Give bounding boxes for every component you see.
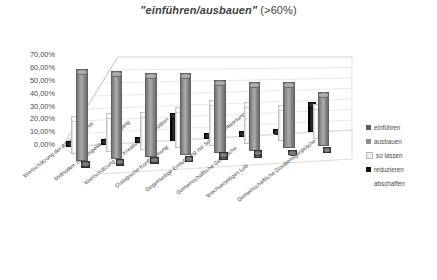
bar-group <box>204 138 238 139</box>
legend-label: so lassen <box>376 152 403 159</box>
legend-swatch-icon <box>366 139 371 144</box>
legend-swatch-icon <box>366 167 371 172</box>
legend-label: einführen <box>374 124 400 131</box>
bar-cylinder-einführen <box>150 159 157 164</box>
cylinder-body <box>318 92 330 147</box>
bar-group <box>308 131 342 132</box>
chart-container: "einführen/ausbauen" (>60%) 70,00% <box>0 0 437 280</box>
cylinder-cap <box>288 150 297 156</box>
cylinder-body <box>283 82 295 148</box>
bar-cylinder-ausbauen <box>283 84 293 148</box>
cylinder-cap <box>76 69 88 75</box>
cylinder-cap <box>111 71 123 77</box>
bar-group <box>239 136 273 137</box>
legend-label: abschaffen <box>374 180 405 187</box>
chart-title: "einführen/ausbauen" (>60%) <box>0 4 437 16</box>
cylinder-body <box>111 71 123 159</box>
cylinder-cap <box>214 80 226 86</box>
bar-cylinder-einführen <box>323 149 330 153</box>
legend-swatch-icon <box>366 125 371 130</box>
legend-item-reduzieren[interactable]: reduzieren <box>366 162 437 176</box>
bar-cylinder-einführen <box>254 152 261 157</box>
cylinder-cap <box>283 82 295 88</box>
category-labels: Wertschätzung der Arbeit EinzelnerMethod… <box>0 168 360 280</box>
cylinder-cap <box>81 161 90 167</box>
bar-cylinder-ausbauen <box>318 94 328 147</box>
bar-cylinder-ausbauen <box>214 82 224 153</box>
bar-cylinder-einführen <box>288 152 295 156</box>
legend-label: reduzieren <box>374 166 404 173</box>
cylinder-body <box>214 80 226 153</box>
bar-group <box>273 133 307 134</box>
cylinder-cap <box>116 159 125 165</box>
legend-label: ausbauen <box>374 138 402 145</box>
cylinder-cap <box>180 73 192 79</box>
bar-cylinder-einführen <box>81 163 88 168</box>
bar-cylinder-ausbauen <box>145 75 155 157</box>
cylinder-body <box>180 73 192 155</box>
cylinder-body <box>76 69 88 161</box>
cylinder-body <box>145 73 157 157</box>
bar-cylinder-einführen <box>219 154 226 159</box>
bar-cylinder-ausbauen <box>76 71 86 161</box>
cylinder-cap <box>249 82 261 88</box>
bar-group <box>170 140 204 141</box>
legend-item-so-lassen[interactable]: so lassen <box>366 148 437 162</box>
bar-cylinder-ausbauen <box>249 84 259 151</box>
cylinder-body <box>249 82 261 151</box>
cylinder-cap <box>318 92 330 98</box>
cylinder-cap <box>145 73 157 79</box>
legend-swatch-icon <box>366 181 371 186</box>
legend-swatch-icon <box>366 152 373 159</box>
bar-group <box>135 142 169 143</box>
cylinder-cap <box>150 157 159 163</box>
chart-title-suffix: (>60%) <box>257 4 297 16</box>
bar-cylinder-einführen <box>185 158 192 162</box>
cylinder-cap <box>185 156 194 162</box>
bar-cylinder-einführen <box>116 161 123 166</box>
legend-item-einführen[interactable]: einführen <box>366 120 437 134</box>
bar-cylinder-ausbauen <box>180 75 190 155</box>
chart-legend: einführenausbauenso lassenreduzierenabsc… <box>366 120 437 190</box>
legend-item-abschaffen[interactable]: abschaffen <box>366 176 437 190</box>
chart-title-quoted: "einführen/ausbauen" <box>140 4 257 16</box>
bar-cylinder-ausbauen <box>111 73 121 159</box>
legend-item-ausbauen[interactable]: ausbauen <box>366 134 437 148</box>
